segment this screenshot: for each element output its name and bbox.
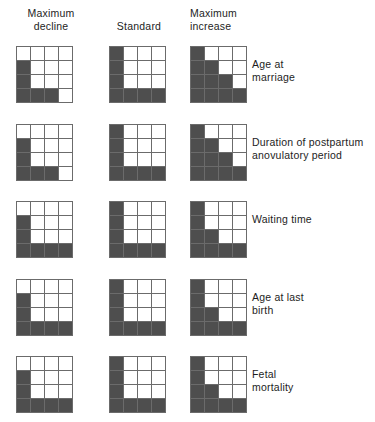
- grid-cell-empty: [31, 385, 44, 398]
- grid-cell-empty: [124, 357, 137, 370]
- grid-cell-empty: [138, 385, 151, 398]
- cell-grid: [16, 356, 73, 413]
- cell-grid: [109, 279, 166, 336]
- grid-cell-empty: [124, 202, 137, 215]
- figure-panel: Maximum decline Standard Maximum increas…: [0, 0, 375, 422]
- grid-cell-empty: [233, 280, 246, 293]
- grid-cell-empty: [233, 47, 246, 60]
- grid-cell-filled: [45, 89, 58, 102]
- grid-cell-filled: [191, 61, 204, 74]
- grid-cell-filled: [152, 399, 165, 412]
- grid-cell-empty: [124, 230, 137, 243]
- grid-cell-filled: [191, 385, 204, 398]
- grid-cell-empty: [138, 139, 151, 152]
- grid-cell-filled: [191, 202, 204, 215]
- grid-cell-empty: [233, 125, 246, 138]
- grid-cell-empty: [124, 294, 137, 307]
- grid-cell-filled: [31, 89, 44, 102]
- grid-cell-filled: [191, 244, 204, 257]
- cell-grid: [16, 201, 73, 258]
- grid-cell-empty: [152, 230, 165, 243]
- cell-grid: [109, 356, 166, 413]
- column-header-standard: Standard: [109, 20, 169, 33]
- grid-cell-filled: [17, 89, 30, 102]
- grid-cell-empty: [45, 125, 58, 138]
- grid-cell-empty: [138, 125, 151, 138]
- grid-cell-empty: [59, 294, 72, 307]
- grid-cell-filled: [205, 244, 218, 257]
- grid-cell-empty: [17, 280, 30, 293]
- grid-cell-filled: [17, 371, 30, 384]
- grid-cell-empty: [219, 294, 232, 307]
- grid-cell-empty: [219, 61, 232, 74]
- grid-cell-empty: [31, 216, 44, 229]
- grid-cell-empty: [233, 216, 246, 229]
- grid-cell-filled: [110, 322, 123, 335]
- grid-cell-filled: [219, 153, 232, 166]
- grid-cell-empty: [233, 61, 246, 74]
- grid-cell-filled: [110, 357, 123, 370]
- grid-cell-filled: [219, 244, 232, 257]
- grid-cell-empty: [138, 153, 151, 166]
- grid-cell-filled: [138, 244, 151, 257]
- grid-cell-empty: [152, 371, 165, 384]
- grid-cell-filled: [59, 322, 72, 335]
- grid-cell-empty: [138, 294, 151, 307]
- grid-cell-empty: [205, 294, 218, 307]
- grid-cell-empty: [17, 47, 30, 60]
- grid-cell-filled: [219, 167, 232, 180]
- grid-cell-empty: [17, 202, 30, 215]
- grid-cell-filled: [205, 89, 218, 102]
- grid-cell-empty: [138, 357, 151, 370]
- grid-cell-filled: [45, 322, 58, 335]
- grid-cell-empty: [233, 385, 246, 398]
- grid-cell-empty: [31, 47, 44, 60]
- grid-cell-filled: [110, 230, 123, 243]
- grid-cell-filled: [17, 322, 30, 335]
- grid-cell-empty: [233, 357, 246, 370]
- grid-cell-empty: [59, 125, 72, 138]
- grid-cell-empty: [138, 216, 151, 229]
- grid-cell-filled: [191, 230, 204, 243]
- grid-cell-filled: [110, 61, 123, 74]
- grid-cell-filled: [191, 75, 204, 88]
- grid-cell-filled: [110, 153, 123, 166]
- grid-cell-filled: [110, 139, 123, 152]
- row-label: Age at last birth: [252, 291, 375, 317]
- grid-cell-empty: [31, 294, 44, 307]
- grid-cell-filled: [205, 75, 218, 88]
- grid-cell-empty: [45, 61, 58, 74]
- grid-cell-empty: [31, 280, 44, 293]
- grid-cell-empty: [138, 202, 151, 215]
- grid-cell-filled: [59, 399, 72, 412]
- cell-grid: [190, 46, 247, 103]
- grid-cell-filled: [191, 167, 204, 180]
- grid-cell-empty: [138, 371, 151, 384]
- grid-cell-empty: [219, 357, 232, 370]
- grid-cell-empty: [124, 153, 137, 166]
- grid-cell-filled: [205, 322, 218, 335]
- grid-cell-empty: [233, 75, 246, 88]
- grid-cell-filled: [219, 322, 232, 335]
- grid-cell-empty: [219, 371, 232, 384]
- grid-cell-empty: [59, 47, 72, 60]
- grid-cell-filled: [205, 153, 218, 166]
- grid-cell-empty: [59, 357, 72, 370]
- grid-cell-empty: [45, 47, 58, 60]
- grid-cell-filled: [191, 139, 204, 152]
- grid-cell-empty: [45, 385, 58, 398]
- grid-cell-empty: [45, 308, 58, 321]
- grid-cell-empty: [31, 61, 44, 74]
- cell-grid: [16, 46, 73, 103]
- column-header-maximum-decline: Maximum decline: [16, 7, 86, 32]
- grid-cell-filled: [17, 244, 30, 257]
- grid-cell-empty: [233, 230, 246, 243]
- grid-cell-empty: [31, 371, 44, 384]
- grid-cell-filled: [110, 75, 123, 88]
- grid-cell-empty: [205, 125, 218, 138]
- grid-cell-empty: [59, 280, 72, 293]
- grid-cell-empty: [31, 153, 44, 166]
- grid-cell-filled: [138, 322, 151, 335]
- grid-cell-empty: [233, 153, 246, 166]
- grid-cell-empty: [138, 230, 151, 243]
